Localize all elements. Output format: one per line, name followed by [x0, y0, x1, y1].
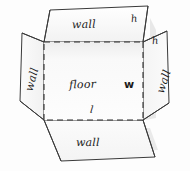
dimension-width-label: w — [124, 79, 134, 90]
dimension-height-top-label: h — [130, 14, 138, 25]
wall-bottom-label: wall — [76, 137, 100, 148]
dimension-height-right-label: h — [151, 36, 159, 47]
wall-top-label: wall — [72, 19, 96, 31]
floor-label: floor — [69, 79, 96, 91]
unfolded-box-diagram: wall wall wall wall floor w l h h — [0, 0, 190, 171]
